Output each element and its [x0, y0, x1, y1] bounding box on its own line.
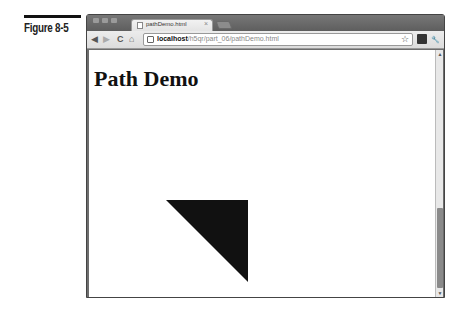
scroll-thumb[interactable] — [437, 208, 443, 288]
page-favicon-icon — [137, 22, 143, 29]
address-bar[interactable]: localhost/h5qr/part_06/pathDemo.html ☆ — [143, 33, 413, 46]
home-icon[interactable]: ⌂ — [129, 34, 134, 45]
tab-close-icon[interactable]: × — [204, 20, 208, 27]
figure-label: Figure 8-5 — [24, 21, 69, 35]
bookmark-star-icon[interactable]: ☆ — [401, 34, 409, 44]
forward-icon[interactable]: ▶ — [103, 34, 110, 45]
page-viewport: Path Demo — [89, 50, 435, 297]
window-control-icon[interactable] — [102, 18, 108, 23]
url-host: localhost — [157, 35, 188, 42]
toolbar: ◀ ▶ C ⌂ localhost/h5qr/part_06/pathDemo.… — [87, 31, 444, 49]
page-action-icon[interactable] — [417, 34, 427, 44]
page-info-icon[interactable] — [147, 36, 154, 43]
triangle-shape — [166, 200, 248, 282]
figure-rule — [24, 15, 81, 18]
tab-title: pathDemo.html — [146, 21, 187, 27]
window-control-icon[interactable] — [111, 18, 117, 23]
wrench-icon[interactable]: 🔧 — [431, 34, 440, 45]
url-text: localhost/h5qr/part_06/pathDemo.html — [157, 35, 279, 42]
title-bar: pathDemo.html × — [87, 15, 444, 31]
vertical-scrollbar[interactable]: ▲ ▼ — [435, 50, 443, 297]
new-tab-button[interactable] — [216, 21, 233, 29]
scroll-up-icon[interactable]: ▲ — [437, 51, 443, 57]
url-path: /h5qr/part_06/pathDemo.html — [188, 35, 279, 42]
reload-icon[interactable]: C — [117, 34, 124, 45]
back-icon[interactable]: ◀ — [91, 34, 98, 45]
canvas — [89, 50, 435, 297]
scroll-down-icon[interactable]: ▼ — [437, 290, 443, 296]
window-control-icon[interactable] — [93, 18, 99, 23]
browser-window: pathDemo.html × ◀ ▶ C ⌂ localhost/h5qr/p… — [86, 14, 445, 298]
